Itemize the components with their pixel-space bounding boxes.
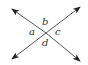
intersecting-lines-diagram: b a c d	[0, 0, 88, 65]
angle-label-b: b	[42, 17, 48, 27]
angle-label-a: a	[29, 27, 35, 37]
lines-graphic	[0, 0, 88, 65]
angle-label-c: c	[55, 27, 61, 37]
angle-label-d: d	[42, 38, 48, 48]
line-2-extension	[46, 7, 80, 33]
line-1-extension	[46, 33, 80, 61]
